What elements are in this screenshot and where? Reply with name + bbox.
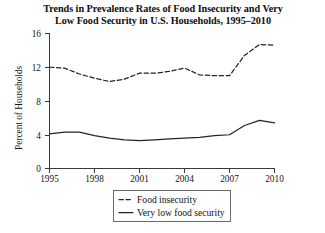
chart-figure: Trends in Prevalence Rates of Food Insec… xyxy=(0,0,325,233)
x-tick-label-1995: 1995 xyxy=(40,174,59,184)
y-axis-tick-labels: 16 12 8 4 0 xyxy=(32,29,42,174)
chart-legend: Food insecurity Very low food security xyxy=(114,191,231,222)
x-tick-label-2004: 2004 xyxy=(175,174,194,184)
y-tick-label-12: 12 xyxy=(32,63,42,73)
x-tick-label-2010: 2010 xyxy=(265,174,284,184)
legend-label-very-low-food-security: Very low food security xyxy=(137,207,225,218)
series-line-food-insecurity xyxy=(50,44,275,81)
y-axis-ticks xyxy=(45,34,50,169)
y-tick-label-0: 0 xyxy=(36,164,41,174)
x-tick-label-1998: 1998 xyxy=(85,174,104,184)
x-tick-label-2001: 2001 xyxy=(130,174,149,184)
y-tick-label-8: 8 xyxy=(36,97,41,107)
series-line-very-low-food-security xyxy=(50,120,275,140)
x-tick-label-2007: 2007 xyxy=(220,174,239,184)
line-chart-plot: Percent of Households 16 12 8 4 0 xyxy=(0,0,325,233)
y-tick-label-4: 4 xyxy=(36,131,41,141)
y-axis-title: Percent of Households xyxy=(14,65,24,150)
legend-label-food-insecurity: Food insecurity xyxy=(137,194,197,205)
x-axis-tick-labels: 1995 1998 2001 2004 2007 2010 xyxy=(40,174,284,184)
y-tick-label-16: 16 xyxy=(32,29,42,39)
x-axis-ticks xyxy=(50,169,275,174)
